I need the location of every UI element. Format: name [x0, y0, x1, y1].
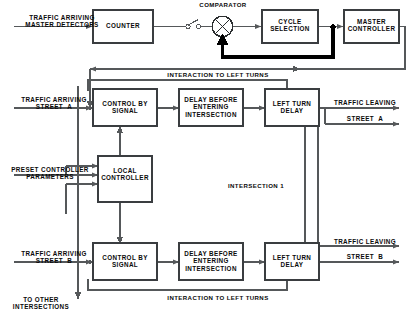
label-traffic-leaving-b: TRAFFIC LEAVING: [330, 238, 400, 245]
label-master-controller: MASTER CONTROLLER: [344, 18, 399, 33]
label-intersection-1: INTERSECTION 1: [196, 182, 316, 189]
wire-left-turn-a-to-output: [309, 106, 399, 110]
label-interaction-to-left-turns-bottom: INTERACTION TO LEFT TURNS: [118, 294, 318, 301]
diagram-canvas: [0, 0, 412, 327]
label-preset-controller-parameters: PRESET CONTROLLER PARAMETERS: [4, 166, 96, 181]
label-interaction-to-left-turns-top: INTERACTION TO LEFT TURNS: [118, 71, 318, 78]
wire-left-vertical-bus: [75, 86, 81, 300]
label-counter: COUNTER: [93, 22, 153, 29]
label-left-turn-delay-a: LEFT TURN DELAY: [265, 100, 319, 115]
traffic-control-block-diagram: TRAFFIC ARRIVING MASTER DETECTORS COUNTE…: [0, 0, 412, 327]
label-traffic-arriving-street-b: TRAFFIC ARRIVING STREET B: [8, 250, 100, 265]
label-to-other-intersections: TO OTHER INTERSECTIONS: [10, 296, 72, 311]
label-comparator: COMPARATOR: [188, 1, 258, 8]
switch-icon: [186, 20, 201, 29]
label-control-by-signal-a: CONTROL BY SIGNAL: [93, 100, 157, 115]
label-traffic-leaving-a: TRAFFIC LEAVING: [330, 99, 400, 106]
label-street-b-out: STREET B: [330, 253, 400, 260]
label-delay-before-entering-intersection-b: DELAY BEFORE ENTERING INTERSECTION: [179, 250, 243, 272]
label-control-by-signal-b: CONTROL BY SIGNAL: [93, 254, 157, 269]
label-street-a-out: STREET A: [330, 115, 400, 122]
label-left-turn-delay-b: LEFT TURN DELAY: [265, 254, 319, 269]
label-delay-before-entering-intersection-a: DELAY BEFORE ENTERING INTERSECTION: [179, 96, 243, 118]
label-cycle-selection: CYCLE SELECTION: [262, 18, 318, 33]
wire-street-b-second-output: [305, 120, 399, 246]
wire-left-turn-b-to-output: [309, 260, 399, 264]
wire-local-controller-to-control-b: [117, 200, 123, 244]
label-local-controller: LOCAL CONTROLLER: [98, 167, 152, 182]
label-traffic-arriving-street-a: TRAFFIC ARRIVING STREET A: [8, 96, 100, 111]
